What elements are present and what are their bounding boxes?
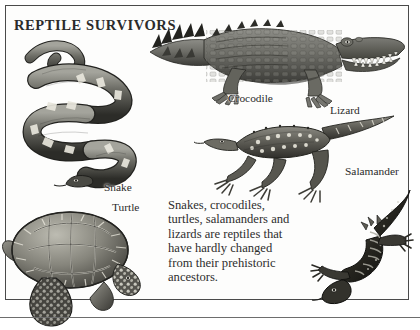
salamander-illustration [308, 176, 412, 308]
label-salamander: Salamander [345, 165, 399, 177]
turtle-illustration [0, 198, 152, 330]
label-crocodile: Crocodile [228, 92, 273, 104]
bottom-rule [0, 317, 420, 318]
label-snake: Snake [104, 181, 132, 193]
page-title: REPTILE SURVIVORS [14, 17, 176, 34]
label-turtle: Turtle [112, 201, 139, 213]
crocodile-illustration [146, 8, 410, 104]
reptile-survivors-page: REPTILE SURVIVORS Snakes, crocodiles, tu… [0, 0, 420, 330]
snake-illustration [16, 36, 152, 188]
description-text: Snakes, crocodiles, turtles, salamanders… [168, 198, 296, 284]
label-lizard: Lizard [330, 104, 360, 116]
